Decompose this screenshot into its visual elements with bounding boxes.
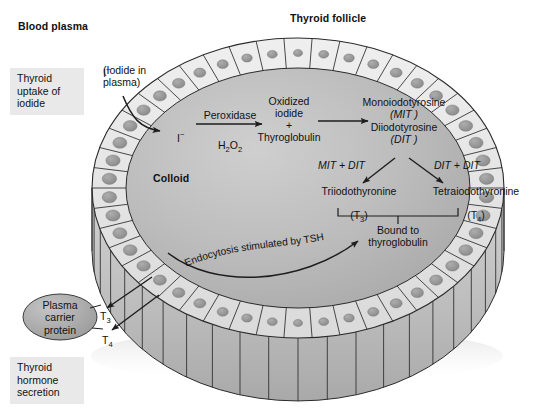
tetraiodothyronine-label: Tetraiodothyronine (406, 185, 546, 197)
peroxidase-label: Peroxidase (197, 109, 263, 121)
plus-sign-1: + (258, 119, 320, 131)
diiodotyrosine-label: Diiodotyrosine (340, 121, 468, 133)
colloid-label: Colloid (153, 172, 189, 184)
mit-abbreviation: (MIT ) (340, 108, 468, 120)
coupling-label-dit-dit: DIT + DIT (434, 159, 480, 171)
blood-plasma-title: Blood plasma (18, 20, 88, 32)
t4-tag-label: T4 (102, 322, 113, 352)
t4-abbreviation: (T4) (406, 197, 546, 227)
label-box-thyroid-uptake: Thyroid uptake of iodide (10, 68, 84, 115)
monoiodotyrosine-label: Monoiodotyrosine (340, 96, 468, 108)
triiodothyronine-label: Triiodothyronine (295, 185, 423, 197)
bound-to-thyroglobulin-label: Bound to thyroglobulin (346, 224, 450, 249)
plasma-carrier-protein-label: Plasma carrier protein (26, 299, 94, 336)
oxidized-iodide-label: Oxidized iodide (258, 95, 320, 120)
thyroglobulin-label: Thyroglobulin (248, 131, 330, 143)
thyroid-follicle-title: Thyroid follicle (290, 12, 366, 24)
iodide-transported-symbol: I− (177, 117, 184, 144)
dit-abbreviation: (DIT ) (340, 133, 468, 145)
iodide-plasma-caption: (Iodide in plasma) (103, 64, 146, 89)
coupling-label-mit-dit: MIT + DIT (318, 159, 365, 171)
t3-abbreviation: (T3) (295, 197, 423, 227)
label-box-hormone-secretion: Thyroid hormone secretion (10, 357, 84, 404)
figure-canvas: Endocytosis stimulated by TSH Blood plas… (0, 0, 559, 414)
